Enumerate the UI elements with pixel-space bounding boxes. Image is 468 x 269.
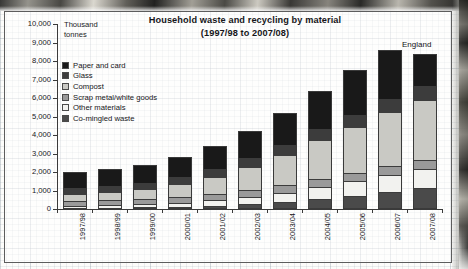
bar-segment — [238, 158, 262, 167]
x-axis-line — [57, 209, 442, 210]
bar-stack — [63, 172, 87, 209]
bar-segment — [133, 189, 157, 199]
bar-stack — [308, 91, 332, 209]
bar-segment — [413, 86, 437, 100]
legend-item-label: Other materials — [73, 103, 126, 112]
bar-segment — [413, 188, 437, 209]
england-annotation: England — [402, 40, 431, 49]
x-axis-tick-label: 2001/02 — [218, 213, 227, 240]
bar-segment — [378, 50, 402, 99]
bar-segment — [203, 206, 227, 209]
page-edge-photo-strip — [459, 0, 468, 269]
x-axis-tick-label: 2003/04 — [288, 213, 297, 240]
y-axis-tick — [53, 43, 57, 44]
bar-segment — [273, 193, 297, 203]
legend-swatch-icon — [62, 94, 69, 101]
bar-segment — [168, 184, 192, 197]
legend-swatch-icon — [62, 62, 69, 69]
chart-legend: Paper and cardGlassCompostScrap metal/wh… — [62, 60, 157, 124]
y-axis-tick-label: 8,000 — [32, 56, 51, 65]
bar-segment — [203, 169, 227, 177]
legend-item-label: Compost — [73, 82, 104, 91]
legend-swatch-icon — [62, 115, 69, 122]
bar-segment — [273, 145, 297, 155]
bar-stack — [343, 70, 367, 209]
bar-segment — [63, 194, 87, 201]
scanned-page: Household waste and recycling by materia… — [0, 0, 468, 269]
bar-stack — [238, 131, 262, 209]
y-axis-tick — [53, 154, 57, 155]
x-axis-tick-label: 2000/01 — [183, 213, 192, 240]
legend-swatch-icon — [62, 83, 69, 90]
y-axis-tick-label: 2,000 — [32, 167, 51, 176]
bar-segment — [133, 183, 157, 190]
x-axis-tick-labels: 1997/981998/991999/002000/012001/022002/… — [57, 213, 442, 257]
bar-segment — [238, 131, 262, 158]
bar-segment — [238, 204, 262, 209]
legend-item-label: Paper and card — [73, 61, 126, 70]
bar-segment — [343, 196, 367, 209]
bar-segment — [273, 185, 297, 192]
y-axis-tick — [53, 117, 57, 118]
bar-segment — [413, 100, 437, 159]
bar-segment — [168, 157, 192, 177]
bar-segment — [203, 177, 227, 195]
x-axis-tick-label: 2006/07 — [393, 213, 402, 240]
bar-segment — [98, 208, 122, 209]
bar-segment — [378, 112, 402, 166]
y-axis-tick-label: 10,000 — [28, 19, 51, 28]
bar-stack — [168, 157, 192, 209]
bar-segment — [98, 169, 122, 186]
y-axis-tick-label: 4,000 — [32, 130, 51, 139]
bar-stack — [413, 54, 437, 209]
bar-segment — [133, 207, 157, 209]
bar-segment — [308, 129, 332, 140]
bar-segment — [378, 166, 402, 175]
bar-stack — [98, 169, 122, 209]
bar-segment — [413, 160, 437, 169]
bar-segment — [378, 175, 402, 192]
y-axis-tick — [53, 80, 57, 81]
y-axis-tick-label: 0 — [47, 204, 51, 213]
bar-segment — [343, 181, 367, 196]
legend-item: Glass — [62, 71, 157, 82]
legend-item: Scrap metal/white goods — [62, 92, 157, 103]
x-axis-tick — [442, 209, 443, 213]
y-axis-tick — [53, 135, 57, 136]
bar-segment — [238, 190, 262, 197]
y-axis-tick-label: 5,000 — [32, 112, 51, 121]
bar-stack — [203, 146, 227, 209]
y-axis-tick — [53, 172, 57, 173]
bar-stack — [378, 50, 402, 209]
y-axis-line — [57, 24, 58, 210]
scan-photo-strip-top — [0, 0, 468, 11]
x-axis-tick-label: 2004/05 — [323, 213, 332, 240]
y-axis-tick-label: 3,000 — [32, 149, 51, 158]
bar-segment — [308, 140, 332, 179]
legend-item-label: Scrap metal/white goods — [73, 93, 157, 102]
bar-segment — [413, 54, 437, 87]
bar-segment — [238, 167, 262, 190]
x-axis-tick-label: 1997/98 — [78, 213, 87, 240]
bar-stack — [273, 113, 297, 209]
y-axis-tick — [53, 24, 57, 25]
x-axis-tick-label: 2007/08 — [428, 213, 437, 240]
bar-segment — [308, 187, 332, 199]
bar-segment — [343, 173, 367, 181]
x-axis-tick-label: 2005/06 — [358, 213, 367, 240]
y-axis-tick-labels: 10,0009,0008,0007,0006,0005,0004,0003,00… — [0, 24, 51, 210]
bar-segment — [273, 202, 297, 209]
bar-segment — [63, 208, 87, 209]
bar-segment — [308, 91, 332, 130]
legend-item: Paper and card — [62, 60, 157, 71]
bar-segment — [378, 192, 402, 209]
bar-segment — [308, 199, 332, 209]
bar-segment — [168, 207, 192, 209]
bar-segment — [133, 165, 157, 183]
y-axis-tick-label: 6,000 — [32, 93, 51, 102]
bar-segment — [413, 169, 437, 188]
bar-segment — [378, 99, 402, 112]
y-axis-tick-label: 1,000 — [32, 186, 51, 195]
bar-segment — [343, 115, 367, 127]
bar-segment — [238, 197, 262, 204]
